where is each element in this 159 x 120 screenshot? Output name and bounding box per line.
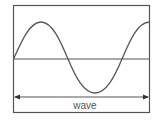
wave-diagram: wave bbox=[0, 0, 159, 120]
wave-label: wave bbox=[72, 100, 97, 111]
